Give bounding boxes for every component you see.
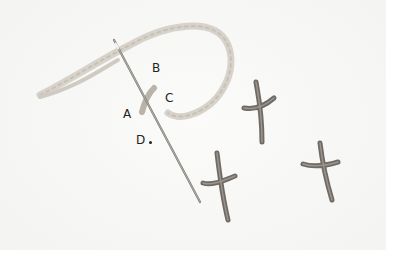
thread-loop (40, 26, 231, 116)
cross-stitch-2 (203, 153, 235, 220)
photo-artwork (0, 0, 400, 264)
cross-stitch-1 (244, 82, 274, 142)
thread-wrap (142, 88, 154, 112)
embroidery-photo: B C A D (0, 0, 400, 264)
label-b: B (152, 62, 160, 74)
photo-border-bottom (0, 250, 400, 264)
label-d: D (136, 134, 145, 146)
point-d-marker (149, 141, 152, 144)
cross-stitch-3 (303, 143, 338, 200)
label-c: C (165, 92, 173, 104)
label-a: A (123, 108, 131, 120)
photo-border-right (386, 0, 400, 264)
